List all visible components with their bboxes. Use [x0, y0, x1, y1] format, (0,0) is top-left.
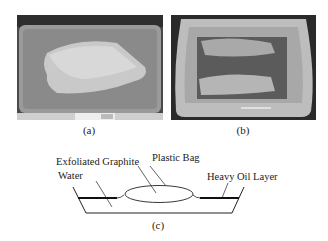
leader-oil [222, 183, 228, 198]
leader-bag [150, 166, 166, 186]
label-heavy-oil-layer: Heavy Oil Layer [207, 171, 278, 182]
label-exfoliated-graphite: Exfoliated Graphite [56, 156, 139, 167]
plastic-bag-shape [125, 186, 193, 203]
schematic-diagram-c [0, 0, 328, 241]
label-water: Water [58, 170, 83, 181]
leader-water [96, 181, 112, 207]
panel-label-c: (c) [143, 219, 173, 231]
label-plastic-bag: Plastic Bag [152, 152, 200, 163]
